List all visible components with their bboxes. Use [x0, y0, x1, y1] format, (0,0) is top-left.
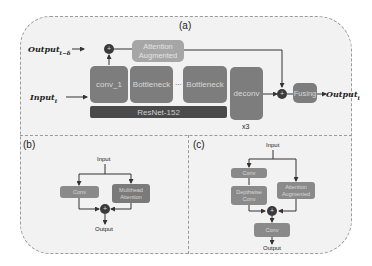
add-operator-a2: +	[277, 89, 287, 99]
prev-output-label: Outputt−δ	[28, 44, 70, 56]
panel-b-multihead-attention-block: Multihead Attention	[112, 184, 150, 203]
connector-arrows	[0, 0, 372, 266]
panel-b-add-operator: +	[100, 204, 110, 214]
bottleneck-block-1: Bottleneck	[130, 66, 173, 103]
bottleneck-block-2: Bottleneck	[183, 66, 227, 103]
fusing-block: Fusing	[293, 83, 317, 103]
resnet-backbone-bar: ResNet-152	[90, 106, 227, 118]
panel-c-add-operator: +	[267, 206, 277, 216]
deconv-block: deconv	[230, 67, 263, 120]
panel-c-attention-augmented-block: Attention Augmented	[277, 182, 315, 199]
panel-c-conv-block-2: Conv	[254, 223, 290, 237]
add-operator-a1: +	[104, 44, 114, 54]
panel-a-label: (a)	[179, 20, 191, 31]
panel-b-input: Input	[97, 156, 110, 162]
conv1-block: conv_1	[90, 66, 128, 103]
panel-b-label: (b)	[23, 139, 35, 150]
attention-augmented-block: Attention Augmented	[132, 40, 184, 62]
panel-b-conv-block: Conv	[60, 186, 99, 198]
panel-c-conv-block-1: Conv	[231, 168, 267, 178]
panel-c-input: Input	[266, 142, 279, 148]
panel-c-output: Output	[263, 245, 281, 251]
repeat-count: x3	[242, 123, 249, 130]
panel-b-output: Output	[95, 226, 113, 232]
output-label: Outputt	[326, 89, 360, 101]
panel-c-depthwise-conv-block: Depthwise Conv	[231, 186, 267, 205]
input-label: Inputt	[30, 92, 57, 104]
panel-c-label: (c)	[193, 139, 205, 150]
ellipsis: ...	[175, 78, 182, 87]
